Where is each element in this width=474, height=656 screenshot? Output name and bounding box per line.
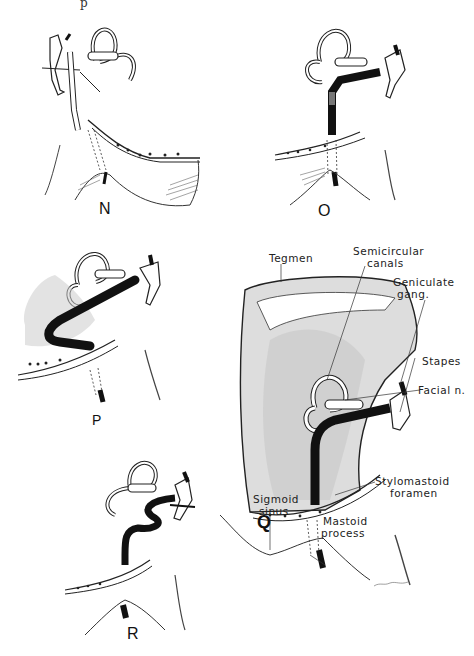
panel-n: N xyxy=(0,0,240,230)
label-tegmen: Tegmen xyxy=(269,252,313,264)
label-geniculate-line2: gang. xyxy=(397,288,429,300)
label-semicircular-canals-line2: canals xyxy=(367,257,404,269)
label-mastoid-line2: process xyxy=(321,527,365,539)
panel-label-o: O xyxy=(318,202,330,220)
label-facial-nerve: Facial n. xyxy=(418,384,465,396)
label-mastoid-line1: Mastoid xyxy=(323,515,368,527)
label-semicircular-canals-line1: Semicircular xyxy=(353,245,424,257)
label-stylomastoid-line2: foramen xyxy=(390,487,438,499)
panel-r: R xyxy=(60,460,300,656)
panel-o: O xyxy=(240,0,474,230)
panel-o-illustration xyxy=(240,0,474,230)
panel-label-p: P xyxy=(92,412,101,428)
panel-n-illustration xyxy=(0,0,240,230)
panel-label-n: N xyxy=(99,200,111,218)
figure-canvas: p xyxy=(0,0,474,656)
panel-r-illustration xyxy=(60,460,300,656)
artist-signature xyxy=(372,573,412,581)
panel-p-illustration xyxy=(0,240,240,440)
label-geniculate-line1: Geniculate xyxy=(393,276,455,288)
label-stylomastoid-line1: Stylomastoid xyxy=(375,475,450,487)
label-stapes: Stapes xyxy=(422,355,461,367)
panel-p: P xyxy=(0,240,240,440)
panel-label-r: R xyxy=(127,625,139,643)
